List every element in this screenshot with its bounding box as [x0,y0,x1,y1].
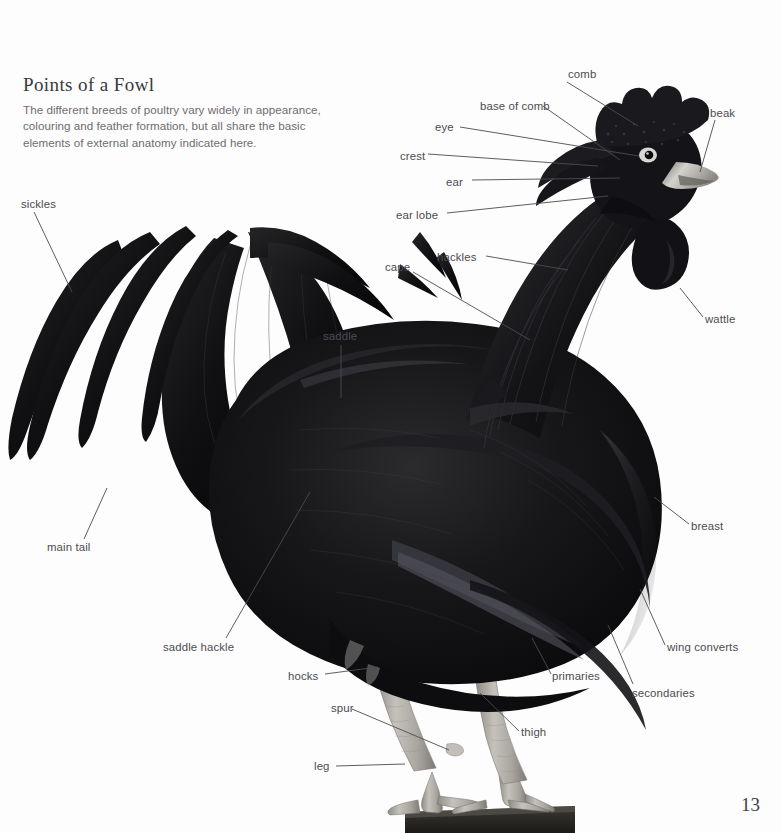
legs [374,663,527,784]
label-comb: comb [568,68,596,80]
wattle-line [680,288,703,317]
page-canvas: Points of a Fowl The different breeds of… [0,0,781,833]
label-primaries: primaries [552,670,600,682]
label-spur: spur [331,702,354,714]
label-ear-lobe: ear lobe [396,209,438,221]
label-hackles: hackles [437,251,476,263]
head [536,86,719,290]
label-saddle-hackle: saddle hackle [163,641,234,653]
label-crest: crest [400,150,425,162]
label-thigh: thigh [521,726,546,738]
wing-converts-line [640,589,665,645]
feet [388,766,555,815]
neck-hackles [466,190,658,448]
label-eye: eye [435,121,454,133]
label-secondaries: secondaries [632,687,695,699]
label-base-of-comb: base of comb [480,100,550,112]
label-hocks: hocks [288,670,318,682]
label-wing-converts: wing converts [667,641,738,653]
eye-line [460,127,639,156]
saddle-hackle-line [226,492,310,638]
secondaries-line [608,625,633,684]
breast-line [654,497,689,524]
label-leg: leg [314,760,330,772]
label-beak: beak [710,107,735,119]
hocks-line [325,667,378,674]
crest-line [428,154,598,166]
cape-line [413,272,530,340]
ear-lobe-line [447,196,608,213]
thigh-line [480,693,519,731]
base-of-comb-line [543,106,620,160]
beak-line [700,120,715,172]
label-wattle: wattle [705,313,735,325]
sickles-line [34,212,72,292]
comb-line [567,82,638,126]
ear-line [472,178,620,180]
page-intro-text: The different breeds of poultry vary wid… [23,102,353,151]
label-main-tail: main tail [47,541,91,553]
label-cape: cape [385,261,410,273]
main-tail-line [84,488,107,539]
hackles-line [486,256,568,270]
primaries-line [532,638,551,674]
leg-line [336,764,405,766]
page-number: 13 [741,794,760,816]
label-saddle: saddle [323,330,357,342]
page-title: Points of a Fowl [23,74,353,96]
label-ear: ear [446,176,463,188]
label-breast: breast [691,520,723,532]
spur-line [352,709,449,750]
perch [405,806,575,833]
body [209,321,662,730]
label-sickles: sickles [21,198,56,210]
heading-block: Points of a Fowl The different breeds of… [23,74,353,151]
leader-lines [34,82,715,766]
tail [162,232,372,514]
